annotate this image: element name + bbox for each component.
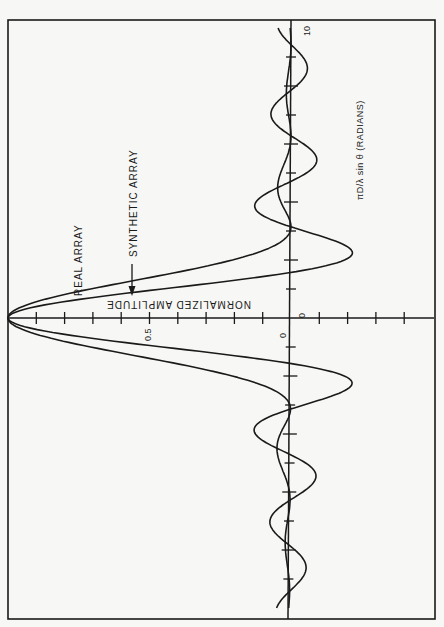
tick-label-0.5: 0.5	[143, 328, 153, 341]
axes	[8, 20, 434, 619]
plot-frame	[8, 20, 435, 619]
real-array-label: REAL ARRAY	[73, 224, 84, 296]
amplitude-axis-label: NORMALIZED AMPLITUDE	[106, 299, 251, 310]
angle-axis-label: πD/λ sin θ (RADIANS)	[355, 100, 365, 200]
synthetic-array-label: SYNTHETIC ARRAY	[128, 149, 139, 257]
radiation-pattern-chart	[0, 0, 444, 627]
tick-label-angle-0: 0	[297, 313, 307, 318]
tick-label-angle-10: 10	[302, 26, 312, 36]
tick-label-amplitude-0: 0	[278, 333, 288, 338]
